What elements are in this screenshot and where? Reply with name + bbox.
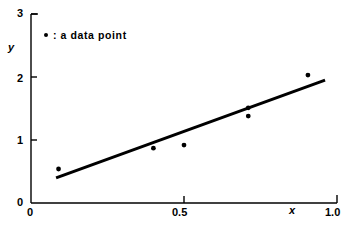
axes-lines <box>31 14 337 203</box>
y-tick-label-0: 0 <box>17 197 23 208</box>
y-tick-label-2: 2 <box>17 73 23 84</box>
y-axis-title: y <box>8 42 14 53</box>
data-point-marker-icon <box>44 33 48 37</box>
x-axis-title: x <box>289 205 295 216</box>
tick-marks <box>31 14 337 203</box>
legend: : a data point <box>44 30 127 41</box>
x-tick-label-0: 0 <box>27 207 33 218</box>
x-tick-label-10: 1.0 <box>325 207 340 218</box>
fitted-line <box>56 80 325 178</box>
x-tick-label-05: 0.5 <box>172 207 187 218</box>
y-tick-label-3: 3 <box>17 8 23 19</box>
scatter-plot-figure: 0 1 2 3 0 0.5 1.0 y x : a data point <box>0 0 355 225</box>
y-tick-label-1: 1 <box>17 135 23 146</box>
legend-label: : a data point <box>53 30 127 41</box>
data-points <box>56 73 310 172</box>
